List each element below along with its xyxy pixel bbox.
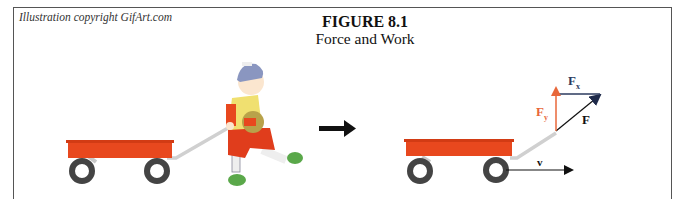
label-v: v xyxy=(537,156,543,168)
wheel-icon xyxy=(486,160,506,180)
left-wagon xyxy=(66,128,228,181)
figure-illustration xyxy=(0,0,686,199)
wheel-icon xyxy=(72,161,92,181)
right-wagon xyxy=(404,133,556,181)
wheel-icon xyxy=(147,161,167,181)
label-F: F xyxy=(582,112,590,128)
wheel-icon xyxy=(410,161,430,181)
label-Fy: Fy xyxy=(536,104,548,122)
force-vector-F xyxy=(556,95,600,131)
transition-arrow-icon xyxy=(319,120,356,137)
child-figure xyxy=(226,62,303,186)
label-Fx: Fx xyxy=(568,73,580,91)
